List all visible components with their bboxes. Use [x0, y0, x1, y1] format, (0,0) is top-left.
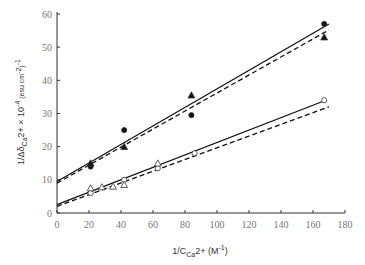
y-axis-label: 1/ΔδCa2+ × 10-4 (esu cm-2)-1 [14, 59, 28, 165]
data-point-circle [189, 113, 194, 118]
chart: 0204060801001201401601800102030405060 1/… [0, 0, 365, 265]
x-tick-label: 40 [116, 219, 126, 230]
data-point-triangle [121, 181, 128, 187]
data-point-circle [122, 127, 127, 132]
data-point-triangle [87, 185, 94, 191]
x-tick-label: 100 [210, 219, 225, 230]
x-tick-label: 20 [84, 219, 94, 230]
x-tick-label: 120 [242, 219, 257, 230]
x-tick-label: 180 [338, 219, 353, 230]
data-markers [87, 21, 327, 195]
data-point-triangle [154, 160, 161, 166]
data-point-circle [155, 166, 160, 171]
y-tick-label: 40 [42, 75, 52, 86]
x-tick-label: 160 [306, 219, 321, 230]
y-tick-label: 50 [42, 42, 52, 53]
y-tick-label: 60 [42, 9, 52, 20]
data-point-circle [192, 151, 197, 156]
y-tick-label: 10 [42, 174, 52, 185]
data-point-circle [88, 191, 93, 196]
x-axis-label: 1/CCa2+ (M-1) [172, 244, 227, 258]
lower-fit-dashed [57, 107, 329, 207]
upper-fit-solid [57, 24, 329, 182]
axes: 0204060801001201401601800102030405060 [42, 9, 353, 231]
x-tick-label: 140 [274, 219, 289, 230]
data-point-triangle [188, 92, 195, 98]
x-tick-label: 60 [148, 219, 158, 230]
x-tick-label: 0 [55, 219, 60, 230]
data-point-circle [322, 98, 327, 103]
y-tick-label: 0 [47, 208, 52, 219]
data-point-circle [322, 21, 327, 26]
y-tick-label: 20 [42, 141, 52, 152]
upper-fit-dashed [57, 30, 329, 183]
x-tick-label: 80 [180, 219, 190, 230]
data-point-triangle [321, 34, 328, 40]
y-tick-label: 30 [42, 108, 52, 119]
